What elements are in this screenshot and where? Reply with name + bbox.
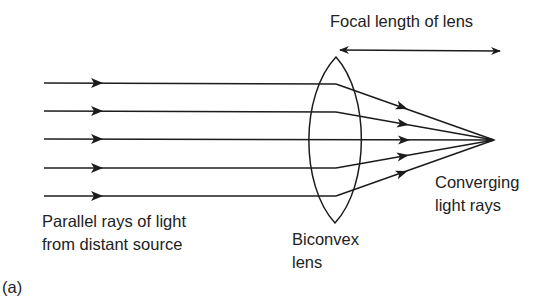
parallel-rays (44, 83, 494, 196)
panel-label: (a) (2, 276, 22, 299)
incoming-ray-3 (44, 139, 494, 140)
focal-point-icon (486, 137, 496, 143)
converging-ray-4 (336, 140, 494, 168)
incoming-ray-1 (44, 83, 336, 84)
parallel-rays-label-line2: from distant source (42, 233, 186, 256)
parallel-rays-label-line1: Parallel rays of light (42, 210, 186, 233)
incoming-ray-2 (44, 111, 336, 112)
focal-length-label: Focal length of lens (330, 10, 473, 33)
converging-rays-label-line2: light rays (435, 194, 519, 217)
biconvex-lens-label-line1: Biconvex (292, 228, 359, 251)
biconvex-lens-label-line2: lens (292, 251, 359, 274)
converging-rays-label-line1: Converging (435, 171, 519, 194)
converging-ray-2 (336, 112, 494, 140)
converging-rays-label: Converging light rays (435, 171, 519, 217)
focal-length-arrow-icon (340, 50, 500, 51)
lens-ray-diagram (0, 0, 552, 304)
biconvex-lens-label: Biconvex lens (292, 228, 359, 274)
parallel-rays-label: Parallel rays of light from distant sour… (42, 210, 186, 256)
